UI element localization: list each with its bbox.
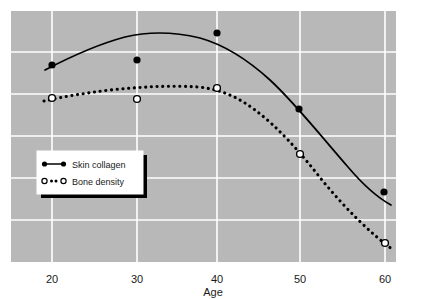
legend-filled-circle-icon-right <box>61 161 66 166</box>
x-tick-label-50: 50 <box>294 273 306 285</box>
data-point-bone-density-age-50 <box>297 151 304 158</box>
legend-box[interactable] <box>37 151 143 194</box>
legend-filled-circle-icon-left <box>42 161 47 166</box>
data-point-skin-collagen-age-50 <box>295 105 302 112</box>
legend-dot-icon-2 <box>55 180 58 183</box>
legend-open-circle-icon-right <box>61 178 66 183</box>
x-axis-title: Age <box>203 286 223 298</box>
chart-figure: Skin collagen Bone density 20 30 40 50 6… <box>0 0 433 299</box>
legend-label-skin-collagen: Skin collagen <box>72 160 126 170</box>
data-point-bone-density-age-20 <box>49 95 56 102</box>
x-tick-label-20: 20 <box>46 273 58 285</box>
x-tick-label-40: 40 <box>211 273 223 285</box>
data-point-bone-density-age-30 <box>134 96 141 103</box>
data-point-skin-collagen-age-40 <box>213 29 220 36</box>
x-tick-label-60: 60 <box>379 273 391 285</box>
data-point-skin-collagen-age-60 <box>380 188 387 195</box>
legend-open-circle-icon-left <box>42 178 47 183</box>
data-point-bone-density-age-40 <box>214 85 221 92</box>
data-point-skin-collagen-age-30 <box>133 56 140 63</box>
skin-collagen-bone-density-line-chart: Skin collagen Bone density 20 30 40 50 6… <box>0 0 433 299</box>
legend-label-bone-density: Bone density <box>72 177 125 187</box>
data-point-skin-collagen-age-20 <box>48 61 55 68</box>
x-tick-label-30: 30 <box>131 273 143 285</box>
legend-dot-icon-1 <box>50 180 53 183</box>
data-point-bone-density-age-60 <box>382 240 389 247</box>
